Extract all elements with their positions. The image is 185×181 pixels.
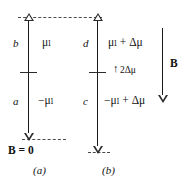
panel-a-node-top-label: b bbox=[13, 38, 19, 49]
panel-b-top-arrowhead-icon bbox=[93, 13, 103, 21]
panel-b-level-top-label: μₗ + Δμ bbox=[108, 37, 143, 49]
splitting-gap-label: 2Δμ bbox=[120, 66, 136, 76]
magnetic-field-arrow-line bbox=[162, 28, 163, 97]
panel-a-level-bottom-label: −μₗ bbox=[38, 95, 53, 107]
panel-b-caption: (b) bbox=[102, 165, 115, 176]
panel-a-top-arrowhead-icon bbox=[24, 13, 34, 21]
panel-a-midpoint-tick bbox=[20, 72, 37, 73]
magnetic-field-arrowhead-icon bbox=[158, 95, 168, 103]
panel-b-axis-line bbox=[97, 19, 98, 152]
panel-a-field-note: B = 0 bbox=[8, 145, 34, 157]
splitting-up-arrow-icon: ↑ bbox=[113, 63, 119, 74]
panel-b-level-bottom-label: −μₗ + Δμ bbox=[104, 95, 145, 107]
panel-a-level-top-label: μₗ bbox=[42, 37, 51, 49]
panel-a-bottom-arrowhead-icon bbox=[24, 133, 34, 141]
energy-level-diagram-figure: b a μₗ −μₗ B = 0 (a) d c μₗ + Δμ −μₗ + Δ… bbox=[0, 0, 185, 181]
panel-a-node-bottom-label: a bbox=[13, 96, 19, 107]
magnetic-field-label: B bbox=[170, 58, 178, 70]
panel-a-caption: (a) bbox=[33, 165, 46, 176]
panel-b-bottom-arrowhead-icon bbox=[93, 146, 103, 154]
panel-b-node-bottom-label: c bbox=[83, 96, 88, 107]
panel-b-midpoint-tick bbox=[89, 72, 106, 73]
panel-a-axis-line bbox=[28, 19, 29, 139]
panel-b-node-top-label: d bbox=[83, 38, 89, 49]
